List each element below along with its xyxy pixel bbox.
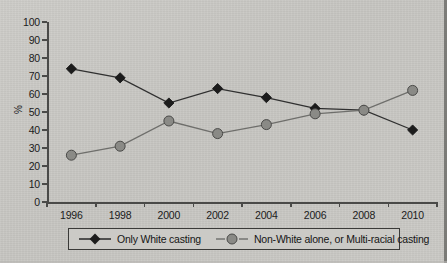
y-tick-label: 10 — [29, 178, 40, 190]
x-tick — [339, 202, 341, 207]
data-point — [261, 120, 271, 130]
legend-item-non-white-or-multiracial-casting: Non-White alone, or Multi-racial casting — [215, 233, 429, 245]
x-tick-label: 2008 — [353, 209, 376, 221]
series-circle — [66, 85, 417, 160]
chart-legend: Only White casting Non-White alone, or M… — [68, 228, 400, 250]
y-tick-label: 100 — [23, 16, 40, 28]
legend-label: Non-White alone, or Multi-racial casting — [254, 233, 429, 245]
data-point — [213, 129, 223, 139]
data-point — [408, 85, 418, 95]
y-axis-title: % — [13, 105, 24, 114]
data-point — [164, 98, 174, 108]
y-tick-label: 0 — [34, 196, 40, 208]
chart-page: 0102030405060708090100 19961998200020022… — [0, 0, 447, 263]
y-tick-label: 90 — [29, 34, 40, 46]
circle-marker-icon — [215, 233, 249, 245]
data-point — [213, 84, 223, 94]
data-point — [66, 150, 76, 160]
y-tick-label: 70 — [29, 70, 40, 82]
x-tick-label: 1996 — [60, 209, 83, 221]
x-tick — [436, 202, 438, 207]
x-tick — [193, 202, 195, 207]
data-point — [164, 116, 174, 126]
x-tick-label: 2000 — [158, 209, 181, 221]
series-layer — [47, 22, 437, 202]
legend-label: Only White casting — [117, 233, 201, 245]
y-tick-label: 30 — [29, 142, 40, 154]
data-point — [115, 141, 125, 151]
series-diamond — [66, 64, 417, 135]
x-tick — [144, 202, 146, 207]
x-tick-label: 1998 — [109, 209, 132, 221]
data-point — [66, 64, 76, 74]
y-tick-label: 20 — [29, 160, 40, 172]
x-tick-label: 2002 — [206, 209, 229, 221]
data-point — [310, 109, 320, 119]
y-tick-label: 80 — [29, 52, 40, 64]
y-tick-label: 40 — [29, 124, 40, 136]
y-tick-label: 60 — [29, 88, 40, 100]
x-tick-label: 2006 — [304, 209, 327, 221]
x-tick — [388, 202, 390, 207]
x-tick — [290, 202, 292, 207]
x-tick-label: 2010 — [401, 209, 424, 221]
x-tick — [241, 202, 243, 207]
data-point — [261, 93, 271, 103]
y-tick-label: 50 — [29, 106, 40, 118]
data-point — [408, 125, 418, 135]
data-point — [359, 105, 369, 115]
x-tick-label: 2004 — [255, 209, 278, 221]
data-point — [115, 73, 125, 83]
diamond-marker-icon — [78, 233, 112, 245]
x-tick — [95, 202, 97, 207]
plot-area: 0102030405060708090100 19961998200020022… — [47, 22, 437, 202]
x-tick — [46, 202, 48, 207]
legend-item-only-white-casting: Only White casting — [78, 233, 201, 245]
